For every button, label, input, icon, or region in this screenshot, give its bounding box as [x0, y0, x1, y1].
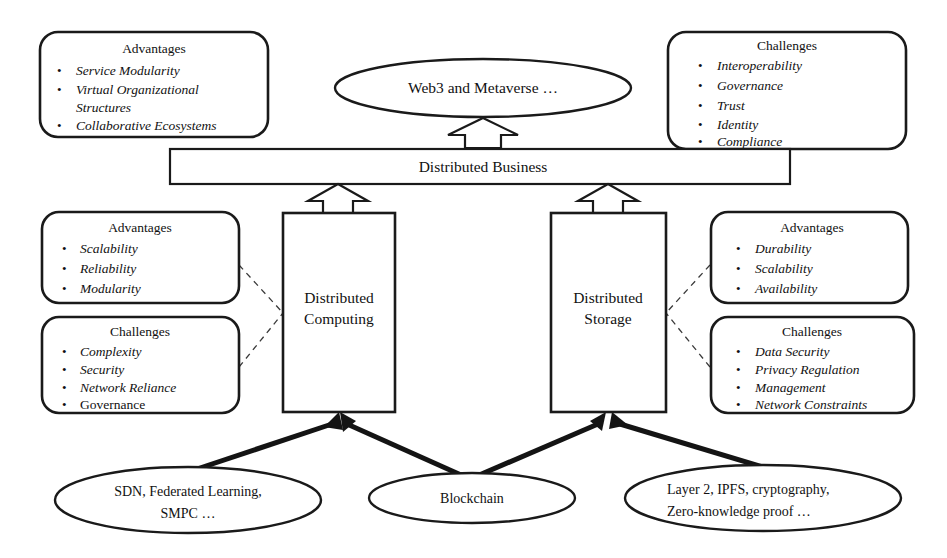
diagram-svg: Advantages • Service Modularity • Virtua…	[0, 0, 947, 558]
callout-mid-right-advantages-heading: Advantages	[780, 220, 844, 235]
callout-mid-left-challenges-item-0: Complexity	[80, 344, 141, 359]
bullet-icon: •	[698, 58, 703, 73]
callout-mid-right-challenges-item-0: Data Security	[754, 344, 830, 359]
bullet-icon: •	[736, 362, 741, 377]
callout-top-right-item-2: Trust	[717, 98, 746, 113]
callout-top-right-item-0: Interoperability	[716, 58, 802, 73]
arrow-sdn-to-computing	[191, 412, 343, 471]
callout-mid-right-advantages[interactable]: Advantages • Durability • Scalability • …	[711, 212, 908, 303]
arrow-blockchain-to-storage	[470, 412, 606, 479]
callout-top-right[interactable]: Challenges • Interoperability • Governan…	[668, 32, 906, 149]
callout-mid-right-challenges-item-3: Network Constraints	[754, 397, 867, 412]
callout-mid-left-challenges[interactable]: Challenges • Complexity • Security • Net…	[42, 317, 239, 413]
callout-top-right-item-3: Identity	[716, 117, 758, 132]
enabler-arrows	[191, 412, 766, 479]
bullet-icon: •	[62, 344, 67, 359]
block-arrow-storage-to-bar	[578, 184, 638, 213]
node-distributed-storage-line2: Storage	[584, 310, 631, 327]
callout-top-left-item-3: Collaborative Ecosystems	[76, 118, 217, 133]
enabler-ellipse-left[interactable]: SDN, Federated Learning, SMPC …	[55, 467, 321, 533]
bullet-icon: •	[62, 281, 67, 296]
distributed-business-label: Distributed Business	[419, 158, 548, 175]
callout-mid-right-advantages-item-2: Availability	[754, 281, 817, 296]
vision-ellipse[interactable]: Web3 and Metaverse …	[335, 59, 631, 117]
arrow-blockchain-to-computing	[340, 412, 470, 479]
bullet-icon: •	[57, 82, 62, 97]
bullet-icon: •	[62, 362, 67, 377]
block-arrow-bar-to-vision	[448, 118, 518, 148]
callout-mid-right-advantages-item-0: Durability	[754, 241, 811, 256]
callout-mid-right-challenges[interactable]: Challenges • Data Security • Privacy Reg…	[711, 317, 914, 413]
dashed-link-left-challenges	[239, 313, 283, 367]
bullet-icon: •	[62, 241, 67, 256]
callout-mid-left-advantages-item-2: Modularity	[79, 281, 141, 296]
bullet-icon: •	[698, 134, 703, 149]
callout-mid-left-challenges-heading: Challenges	[110, 324, 170, 339]
node-distributed-computing-line2: Computing	[304, 310, 374, 327]
dashed-link-right-advantages	[666, 265, 710, 313]
callout-top-left-heading: Advantages	[122, 41, 186, 56]
node-distributed-computing-line1: Distributed	[304, 289, 374, 306]
bullet-icon: •	[57, 118, 62, 133]
enabler-center-line1: Blockchain	[440, 491, 504, 506]
bullet-icon: •	[698, 117, 703, 132]
callout-mid-left-challenges-item-2: Network Reliance	[79, 380, 176, 395]
callout-top-left-item-0: Service Modularity	[76, 63, 180, 78]
enabler-right-line1: Layer 2, IPFS, cryptography,	[667, 482, 829, 497]
bullet-icon: •	[736, 261, 741, 276]
callout-top-right-item-1: Governance	[717, 78, 783, 93]
bullet-icon: •	[62, 380, 67, 395]
callout-top-right-item-4: Compliance	[717, 134, 782, 149]
callout-mid-right-challenges-item-1: Privacy Regulation	[754, 362, 860, 377]
bullet-icon: •	[736, 380, 741, 395]
callout-mid-left-advantages[interactable]: Advantages • Scalability • Reliability •…	[42, 212, 239, 303]
callout-mid-left-advantages-heading: Advantages	[108, 220, 172, 235]
bullet-icon: •	[698, 78, 703, 93]
callout-top-left-item-1: Virtual Organizational	[76, 82, 199, 97]
enabler-left-line1: SDN, Federated Learning,	[114, 484, 262, 499]
node-distributed-computing[interactable]: Distributed Computing	[283, 213, 395, 412]
enabler-ellipse-center[interactable]: Blockchain	[369, 473, 575, 523]
callout-mid-left-challenges-item-1: Security	[80, 362, 124, 377]
callout-mid-right-advantages-item-1: Scalability	[755, 261, 813, 276]
bullet-icon: •	[62, 397, 67, 412]
node-distributed-storage-line1: Distributed	[573, 289, 643, 306]
callout-top-left[interactable]: Advantages • Service Modularity • Virtua…	[40, 32, 268, 137]
callout-mid-left-advantages-item-1: Reliability	[79, 261, 136, 276]
callout-mid-right-challenges-heading: Challenges	[782, 324, 842, 339]
bullet-icon: •	[736, 281, 741, 296]
enabler-right-line2: Zero-knowledge proof …	[667, 504, 811, 519]
vision-label: Web3 and Metaverse …	[408, 79, 558, 96]
diagram-canvas: Advantages • Service Modularity • Virtua…	[0, 0, 947, 558]
arrow-layer2-to-storage	[609, 412, 766, 468]
dashed-link-right-challenges	[666, 313, 710, 367]
node-distributed-storage[interactable]: Distributed Storage	[551, 213, 666, 412]
bullet-icon: •	[736, 344, 741, 359]
callout-top-left-item-2: Structures	[76, 100, 131, 115]
enabler-left-line2: SMPC …	[161, 506, 216, 521]
callout-top-right-heading: Challenges	[757, 38, 817, 53]
callout-mid-left-advantages-item-0: Scalability	[80, 241, 138, 256]
callout-mid-left-challenges-item-3: Governance	[80, 397, 145, 412]
bullet-icon: •	[736, 241, 741, 256]
distributed-business-bar[interactable]: Distributed Business	[170, 149, 790, 184]
bullet-icon: •	[62, 261, 67, 276]
block-arrow-computing-to-bar	[308, 184, 368, 213]
dashed-link-left-advantages	[239, 265, 283, 313]
bullet-icon: •	[698, 98, 703, 113]
enabler-ellipse-right[interactable]: Layer 2, IPFS, cryptography, Zero-knowle…	[625, 465, 901, 531]
bullet-icon: •	[57, 63, 62, 78]
callout-mid-right-challenges-item-2: Management	[754, 380, 827, 395]
bullet-icon: •	[736, 397, 741, 412]
